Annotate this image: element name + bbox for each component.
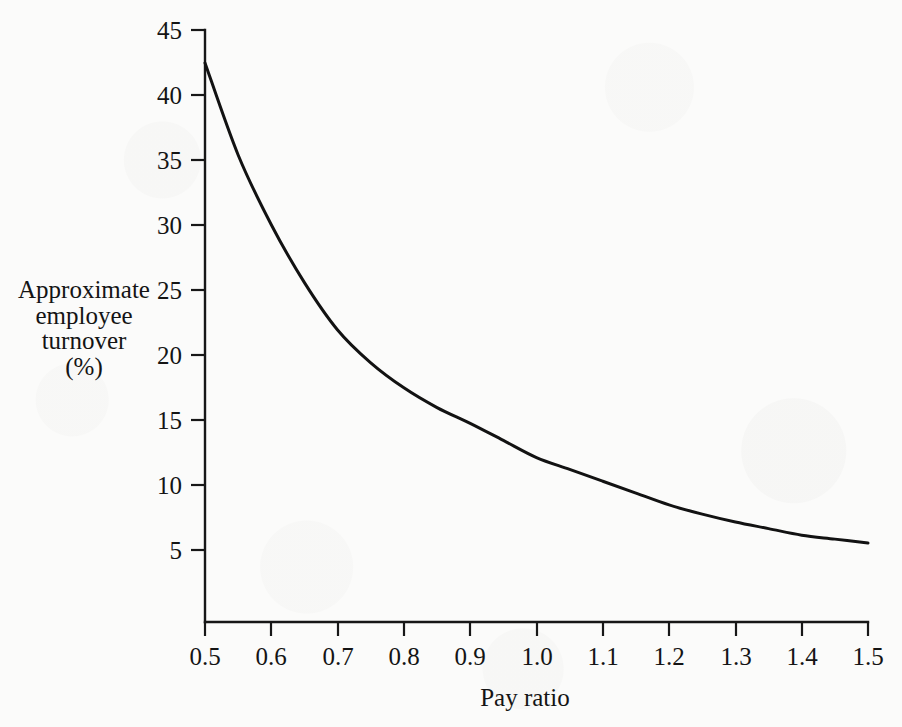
x-tick-label-0-8: 0.8 bbox=[388, 643, 419, 670]
x-tick-label-1-3: 1.3 bbox=[720, 643, 751, 670]
x-tick-label-1-0: 1.0 bbox=[521, 643, 552, 670]
y-tick-label-45: 45 bbox=[157, 17, 182, 44]
x-tick-label-0-6: 0.6 bbox=[255, 643, 286, 670]
figure-canvas: Approximate employee turnover (%) 45 40 … bbox=[0, 0, 902, 727]
x-tick-label-0-9: 0.9 bbox=[454, 643, 485, 670]
y-tick-label-35: 35 bbox=[157, 147, 182, 174]
y-tick-label-20: 20 bbox=[157, 342, 182, 369]
x-axis-title: Pay ratio bbox=[480, 684, 570, 711]
y-tick-label-25: 25 bbox=[157, 277, 182, 304]
x-tick-label-0-5: 0.5 bbox=[189, 643, 220, 670]
x-tick-label-0-7: 0.7 bbox=[322, 643, 353, 670]
x-tick-label-1-2: 1.2 bbox=[653, 643, 684, 670]
y-tick-label-40: 40 bbox=[157, 82, 182, 109]
y-axis-ticks bbox=[191, 30, 205, 550]
y-tick-label-10: 10 bbox=[157, 472, 182, 499]
y-tick-label-30: 30 bbox=[157, 212, 182, 239]
x-tick-label-1-5: 1.5 bbox=[852, 643, 883, 670]
x-tick-label-1-1: 1.1 bbox=[587, 643, 618, 670]
turnover-curve bbox=[205, 63, 868, 543]
x-axis-tick-labels: 0.5 0.6 0.7 0.8 0.9 1.0 1.1 1.2 1.3 1.4 … bbox=[189, 643, 883, 670]
x-axis-ticks bbox=[205, 622, 868, 636]
line-chart: 45 40 35 30 25 20 15 10 5 0.5 0.6 0 bbox=[0, 0, 902, 727]
y-tick-label-5: 5 bbox=[170, 537, 183, 564]
x-tick-label-1-4: 1.4 bbox=[786, 643, 818, 670]
y-axis-tick-labels: 45 40 35 30 25 20 15 10 5 bbox=[157, 17, 182, 564]
y-tick-label-15: 15 bbox=[157, 407, 182, 434]
